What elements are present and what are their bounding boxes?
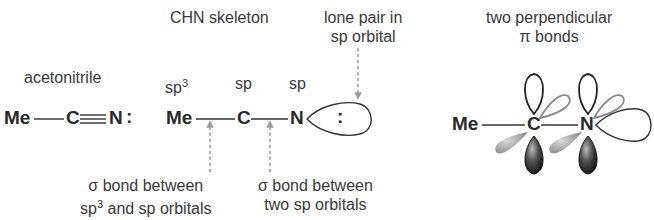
diagram-graphics — [0, 0, 654, 220]
mid-sp-orbital — [307, 103, 371, 136]
left-bonds — [34, 115, 106, 123]
